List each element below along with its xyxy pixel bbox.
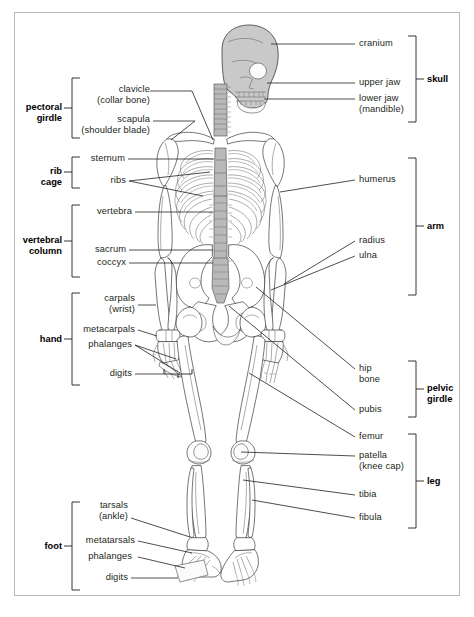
label-femur: femur (359, 431, 407, 442)
label-hip-bone: hip bone (359, 363, 399, 385)
label-cranium: cranium (359, 38, 419, 49)
label-carpals: carpals (wrist) (18, 293, 135, 315)
label-upper-jaw: upper jaw (359, 77, 423, 88)
group-label-pelvic-girdle: pelvic girdle (427, 383, 471, 405)
skeleton-diagram-page: clavicle (collar bone) scapula (shoulder… (0, 0, 474, 617)
group-label-foot: foot (4, 541, 62, 552)
right-leg-group (221, 336, 265, 586)
group-label-skull: skull (427, 74, 471, 85)
label-radius: radius (359, 235, 419, 246)
label-tarsals: tarsals (ankle) (18, 500, 128, 522)
group-label-arm: arm (427, 221, 471, 232)
pelvis-group (176, 245, 266, 345)
group-label-pectoral-girdle: pectoral girdle (4, 102, 62, 124)
left-leg-group (175, 336, 221, 582)
label-vertebra: vertebra (18, 206, 132, 217)
label-tibia: tibia (359, 489, 407, 500)
label-pubis: pubis (359, 404, 407, 415)
group-label-rib-cage: rib cage (4, 166, 62, 188)
label-phalanges-foot: phalanges (18, 551, 132, 562)
label-sternum: sternum (18, 153, 125, 164)
label-lower-jaw: lower jaw (mandible) (359, 93, 423, 115)
label-humerus: humerus (359, 174, 419, 185)
group-label-leg: leg (427, 476, 471, 487)
group-label-hand: hand (4, 334, 62, 345)
lumbar-spine-group (209, 196, 232, 268)
group-label-vertebral-column: vertebral column (4, 235, 62, 257)
label-patella: patella (knee cap) (359, 450, 421, 472)
cervical-spine-group (214, 84, 231, 136)
label-fibula: fibula (359, 512, 407, 523)
skull-group (222, 25, 278, 113)
label-coccyx: coccyx (18, 257, 126, 268)
label-digits-foot: digits (18, 572, 128, 583)
label-digits-hand: digits (18, 368, 132, 379)
label-ulna: ulna (359, 250, 419, 261)
